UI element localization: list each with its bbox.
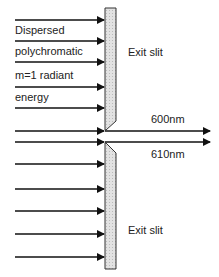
exit-slit-bottom-label: Exit slit xyxy=(128,224,163,236)
exit-slit-lower-jaw xyxy=(105,143,116,269)
beam-label-600nm: 600nm xyxy=(151,113,185,125)
output-beams xyxy=(105,131,210,142)
input-label-line-3: m=1 radiant xyxy=(15,69,73,81)
diffraction-exit-slit-diagram xyxy=(0,0,219,277)
input-label-line-1: Dispersed xyxy=(15,24,65,36)
input-label-line-4: energy xyxy=(15,91,49,103)
beam-label-610nm: 610nm xyxy=(151,148,185,160)
exit-slit-upper-jaw xyxy=(105,8,116,130)
exit-slit-top-label: Exit slit xyxy=(128,46,163,58)
input-label-line-2: polychromatic xyxy=(15,45,83,57)
